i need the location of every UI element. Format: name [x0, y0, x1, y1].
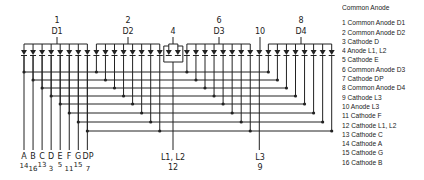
diode-icon [274, 50, 280, 56]
junction-dot [231, 111, 234, 114]
legend-row: 10 Anode L3 [342, 102, 405, 111]
segment-label: B [30, 152, 36, 161]
junction-dot [41, 86, 44, 89]
legend-pin-number: 14 [342, 139, 349, 148]
legend-pin-name: Common Anode D2 [348, 28, 406, 37]
legend-row: 8 Common Anode D4 [342, 83, 405, 92]
legend-pin-number: 10 [342, 102, 349, 111]
legend-pin-name: Cathode L3 [348, 93, 382, 102]
legend-row: 7 Cathode DP [342, 74, 405, 83]
junction-dot [31, 78, 34, 81]
segment-pin: 11 [65, 165, 74, 173]
legend-pin-name: Common Anode D4 [348, 83, 406, 92]
diode-icon [175, 50, 181, 56]
junction-dot [312, 111, 315, 114]
diode-row [21, 50, 335, 56]
pin-label-l3-anode: 10 [255, 27, 265, 36]
junction-dot [240, 120, 243, 123]
pin-legend: Common Anode 1 Common Anode D12 Common A… [342, 3, 405, 167]
legend-pin-number: 12 [342, 121, 349, 130]
legend-row: 1 Common Anode D1 [342, 18, 405, 27]
legend-pin-name: Cathode C [351, 130, 383, 139]
junction-dot [321, 120, 324, 123]
legend-pin-name: Cathode E [348, 55, 379, 64]
legend-pin-number: 9 [342, 93, 346, 102]
junction-dot [77, 120, 80, 123]
legend-pin-number: 15 [342, 148, 349, 157]
legend-pin-name: Anode L1, L2 [347, 46, 386, 55]
junction-dot [59, 102, 62, 105]
diode-icon [84, 50, 90, 56]
legend-row: 3 Cathode D [342, 37, 405, 46]
diode-icon [302, 50, 308, 56]
legend-row: 9 Cathode L3 [342, 93, 405, 102]
legend-pin-name: Cathode F [351, 111, 382, 120]
l3-cathode-label: L3 [255, 153, 265, 162]
junction-dot [140, 111, 143, 114]
diode-icon [112, 50, 118, 56]
legend-pin-name: Common Anode D1 [348, 18, 406, 27]
digit-label-d2: D2 [122, 27, 133, 36]
colon-cathode-label: L1, L2 [161, 153, 185, 162]
junction-dot [222, 102, 225, 105]
junction-dot [276, 78, 279, 81]
segment-pin: 7 [86, 165, 90, 173]
diode-icon [39, 50, 45, 56]
legend-pin-name: Cathode D [348, 37, 380, 46]
legend-pin-number: 6 [342, 65, 346, 74]
schematic: 1 D1 2 D2 4 6 D3 10 8 D4 A14B16C13D3E5F1… [0, 0, 340, 180]
segment-pin: 15 [74, 161, 83, 169]
junction-dot [149, 120, 152, 123]
legend-title: Common Anode [342, 3, 405, 12]
diode-icon [139, 50, 145, 56]
diode-icon [48, 50, 54, 56]
diode-icon [166, 50, 172, 56]
segment-label: G [75, 152, 81, 161]
legend-pin-number: 5 [342, 55, 346, 64]
segment-pin: 5 [58, 161, 62, 169]
diode-icon [148, 50, 154, 56]
diode-icon [320, 50, 326, 56]
pin-label-colon-anode: 4 [170, 27, 175, 36]
diode-icon [211, 50, 217, 56]
junction-dot [267, 70, 270, 73]
junction-dot [294, 94, 297, 97]
pin-label-d3: 6 [216, 16, 221, 25]
legend-row: 11 Cathode F [342, 111, 405, 120]
junction-dot [86, 129, 89, 132]
legend-pin-number: 7 [342, 74, 346, 83]
segment-label: D [48, 152, 54, 161]
legend-pin-number: 2 [342, 28, 346, 37]
diode-icon [193, 50, 199, 56]
segment-label: A [21, 152, 27, 161]
junction-dot [113, 86, 116, 89]
l3-cathode-pin: 9 [257, 163, 262, 172]
diode-icon [21, 50, 27, 56]
legend-pin-number: 13 [342, 130, 349, 139]
legend-pin-number: 8 [342, 83, 346, 92]
legend-row: 13 Cathode C [342, 130, 405, 139]
diode-icon [75, 50, 81, 56]
pin-label-d1: 1 [54, 16, 59, 25]
diode-icon [121, 50, 127, 56]
legend-pin-number: 4 [342, 46, 346, 55]
junction-dot [249, 129, 252, 132]
legend-pin-name: Cathode DP [348, 74, 384, 83]
digit-label-d4: D4 [295, 27, 306, 36]
junction-dot [50, 94, 53, 97]
diode-icon [57, 50, 63, 56]
legend-row: 16 Cathode B [342, 158, 405, 167]
diode-icon [220, 50, 226, 56]
pin-label-d2: 2 [125, 16, 130, 25]
junction-dot [158, 129, 161, 132]
segment-label: F [67, 152, 72, 161]
pin-label-d4: 8 [298, 16, 303, 25]
diode-icon [238, 50, 244, 56]
junction-dot [131, 102, 134, 105]
diode-icon [229, 50, 235, 56]
diode-icon [184, 50, 190, 56]
diode-icon [265, 50, 271, 56]
junction-dot [194, 78, 197, 81]
legend-row: 6 Common Anode D3 [342, 65, 405, 74]
segment-pin: 13 [38, 161, 47, 169]
